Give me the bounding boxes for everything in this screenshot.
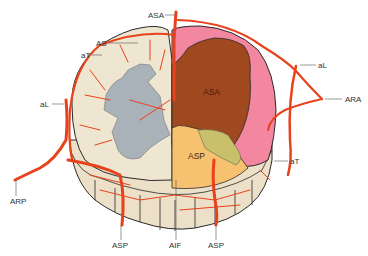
spinal-cord-diagram: ASA AS aT aL ARP ASP AIF ASP aT ARA aL A…	[0, 0, 368, 256]
label-asa-top: ASA	[148, 11, 164, 20]
label-asp-left: ASP	[112, 241, 128, 250]
label-as: AS	[96, 39, 107, 48]
label-al-left: aL	[40, 100, 49, 109]
label-arp: ARP	[10, 197, 26, 206]
label-ara: ARA	[345, 95, 361, 104]
label-at-right: aT	[290, 157, 299, 166]
label-al-right: aL	[318, 61, 327, 70]
label-asp-right: ASP	[208, 241, 224, 250]
label-asp-region: ASP	[188, 152, 205, 161]
label-at-left: aT	[81, 51, 90, 60]
label-asa-region: ASA	[203, 88, 220, 97]
diagram-graphic	[0, 0, 368, 256]
label-aif: AIF	[169, 241, 181, 250]
